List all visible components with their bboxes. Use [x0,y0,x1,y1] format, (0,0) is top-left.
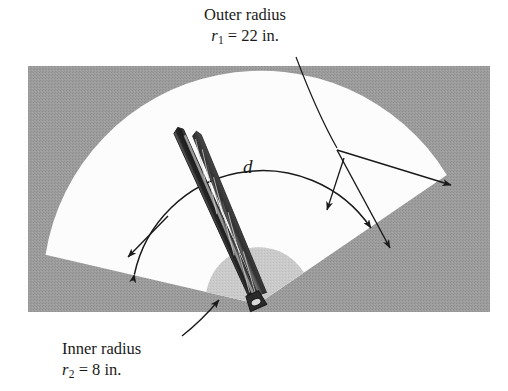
inner-radius-label-line1: Inner radius [62,339,141,358]
inner-radius-label-line2: r2 = 8 in. [62,359,141,382]
outer-radius-variable: r [211,26,217,45]
outer-radius-label-line2: r1 = 22 in. [204,25,286,48]
wiper-sector-figure [0,0,508,391]
inner-radius-subscript: 2 [68,368,74,380]
inner-radius-value: = 8 in. [79,360,122,379]
inner-radius-label: Inner radius r2 = 8 in. [62,338,141,382]
outer-radius-label: Outer radius r1 = 22 in. [204,4,286,48]
outer-radius-subscript: 1 [218,34,224,46]
outer-radius-value: = 22 in. [228,26,279,45]
outer-radius-label-line1: Outer radius [204,5,286,24]
sweep-angle-label: d [243,155,253,179]
